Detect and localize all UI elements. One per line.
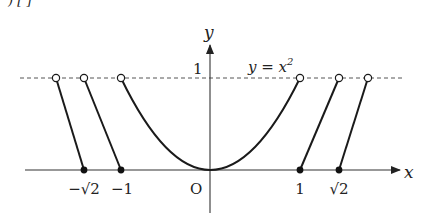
open-point xyxy=(117,74,124,81)
x-axis-label: x xyxy=(404,162,414,182)
segment-right-outer xyxy=(339,78,368,170)
closed-point xyxy=(336,167,343,174)
open-point xyxy=(80,74,87,81)
y-axis-label: y xyxy=(203,22,214,42)
x-tick-neg-1: −1 xyxy=(111,180,133,198)
function-graph: ) [ ] y 1 x O y = x2 −√2 −1 1 √2 xyxy=(0,0,423,213)
x-tick-1: 1 xyxy=(295,180,305,198)
closed-point xyxy=(297,167,304,174)
origin-label: O xyxy=(190,180,202,198)
open-point xyxy=(335,74,342,81)
closed-point xyxy=(81,167,88,174)
x-tick-sqrt2: √2 xyxy=(329,180,348,198)
closed-point xyxy=(118,167,125,174)
cut-off-header-text: ) [ ] xyxy=(7,0,32,8)
open-point xyxy=(52,74,59,81)
open-point xyxy=(296,74,303,81)
curve-exponent: 2 xyxy=(286,56,293,67)
open-point xyxy=(364,74,371,81)
segment-left-inner xyxy=(84,78,121,170)
segment-right-inner xyxy=(300,78,339,170)
curve-equation-label: y = x2 xyxy=(247,56,293,76)
segment-left-outer xyxy=(56,78,84,170)
x-tick-neg-sqrt2: −√2 xyxy=(68,180,100,198)
y-tick-1-label: 1 xyxy=(193,60,203,78)
